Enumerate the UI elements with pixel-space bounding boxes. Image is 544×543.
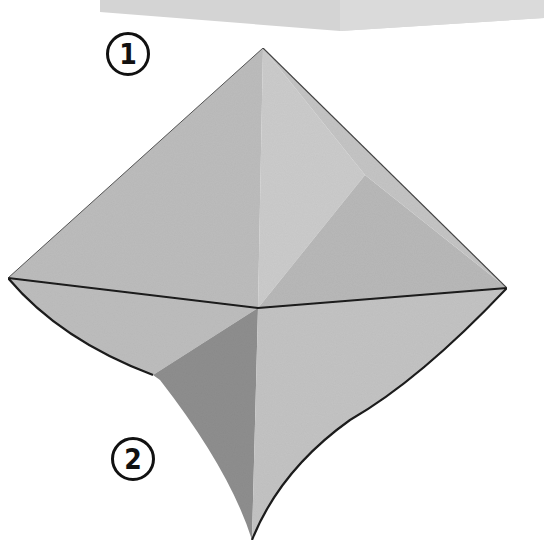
origami-diagram [0,0,544,543]
step-1-label: 1 [106,32,150,76]
folded-paper-model [8,48,507,540]
previous-step-paper [100,0,544,31]
step-2-label: 2 [111,437,155,481]
